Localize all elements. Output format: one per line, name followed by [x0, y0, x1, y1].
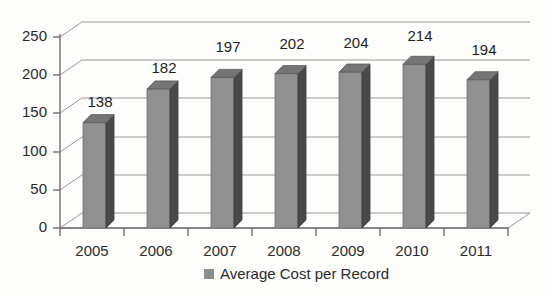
chart-legend: Average Cost per Record	[204, 265, 389, 282]
x-tick-label-2007: 2007	[203, 242, 236, 259]
legend-label: Average Cost per Record	[220, 265, 389, 282]
legend-swatch	[204, 269, 214, 279]
y-axis	[53, 34, 60, 228]
value-label-2006: 182	[151, 59, 176, 76]
value-label-2005: 138	[87, 93, 112, 110]
value-label-2010: 214	[407, 27, 432, 44]
x-tick-label-2010: 2010	[395, 242, 428, 259]
chart-canvas: 250 200 150 100 50 0	[0, 0, 546, 294]
bar-2006	[147, 81, 178, 228]
y-tick-label: 250	[22, 27, 47, 44]
x-tick-labels: 2005 2006 2007 2008 2009 2010 2011	[75, 242, 492, 259]
value-label-2011: 194	[471, 41, 496, 58]
y-tick-label: 200	[22, 65, 47, 82]
y-tick-labels: 250 200 150 100 50 0	[22, 27, 47, 235]
x-tick-label-2006: 2006	[139, 242, 172, 259]
y-tick-label: 0	[39, 218, 47, 235]
bar-2007	[211, 69, 242, 228]
x-tick-label-2011: 2011	[460, 242, 492, 259]
x-tick-label-2009: 2009	[331, 242, 364, 259]
value-label-2007: 197	[215, 38, 240, 55]
bar-chart: 250 200 150 100 50 0	[0, 0, 546, 294]
x-tick-label-2005: 2005	[75, 242, 108, 259]
bar-2011	[467, 72, 498, 228]
value-label-2008: 202	[279, 35, 304, 52]
value-label-2009: 204	[343, 34, 368, 51]
y-tick-label: 150	[22, 103, 47, 120]
y-tick-label: 100	[22, 142, 47, 159]
x-axis	[60, 228, 508, 236]
x-tick-label-2008: 2008	[267, 242, 300, 259]
bar-2009	[339, 64, 370, 228]
y-tick-label: 50	[30, 180, 47, 197]
bar-2010	[403, 56, 434, 228]
bar-2005	[83, 115, 114, 228]
bar-2008	[275, 66, 306, 228]
